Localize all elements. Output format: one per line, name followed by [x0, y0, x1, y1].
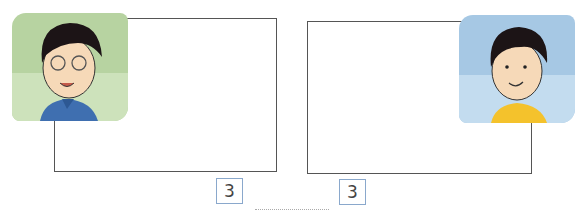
boy-yellow-shirt-avatar: [459, 15, 575, 123]
boy-yellow-shirt-icon: [459, 15, 575, 123]
dotted-answer-line: [255, 209, 329, 210]
boy-with-glasses-icon: [12, 13, 128, 121]
boy-with-glasses-avatar: [12, 13, 128, 121]
right-number-box: 3: [339, 179, 366, 205]
left-number-box: 3: [216, 178, 243, 204]
